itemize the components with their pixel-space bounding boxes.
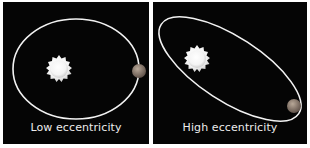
planet-icon	[287, 99, 301, 113]
eccentricity-comparison-figure: Low eccentricity High eccent	[0, 0, 310, 148]
panel-caption: High eccentricity	[153, 121, 307, 134]
low-eccentricity-panel: Low eccentricity	[3, 2, 149, 144]
planet-icon	[132, 64, 146, 78]
orbit-path	[13, 19, 139, 119]
high-eccentricity-panel: High eccentricity	[153, 2, 307, 144]
star-icon	[184, 45, 210, 72]
star-icon	[46, 55, 72, 82]
panel-caption: Low eccentricity	[3, 121, 149, 134]
orbit-path	[153, 2, 307, 140]
